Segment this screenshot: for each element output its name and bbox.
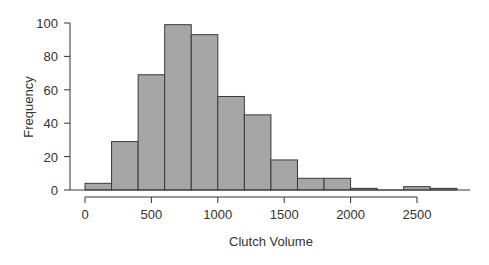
x-tick-label: 2500 [403, 207, 432, 222]
y-tick-label: 100 [36, 16, 58, 31]
histogram-bar [165, 25, 192, 190]
y-axis: 020406080100 [36, 16, 70, 198]
histogram-bar [191, 35, 218, 190]
y-axis-title: Frequency [21, 76, 36, 138]
x-tick-label: 2000 [336, 207, 365, 222]
histogram-chart: 020406080100 05001000150020002500 Freque… [0, 0, 489, 265]
histogram-bar [324, 178, 351, 190]
x-tick-label: 0 [81, 207, 88, 222]
histogram-bar [404, 187, 431, 190]
x-tick-label: 1500 [270, 207, 299, 222]
y-tick-label: 80 [44, 49, 58, 64]
x-tick-label: 500 [141, 207, 163, 222]
y-tick-label: 40 [44, 116, 58, 131]
histogram-bar [85, 183, 112, 190]
histogram-bar [138, 75, 165, 190]
histogram-bars [70, 25, 470, 190]
y-tick-label: 60 [44, 83, 58, 98]
x-axis-title: Clutch Volume [229, 234, 313, 249]
histogram-bar [297, 178, 324, 190]
histogram-bar [244, 115, 271, 190]
y-tick-label: 20 [44, 150, 58, 165]
x-tick-label: 1000 [203, 207, 232, 222]
y-tick-label: 0 [51, 183, 58, 198]
histogram-bar [271, 160, 298, 190]
x-axis: 05001000150020002500 [81, 197, 431, 222]
histogram-bar [112, 142, 139, 190]
histogram-bar [218, 96, 245, 190]
